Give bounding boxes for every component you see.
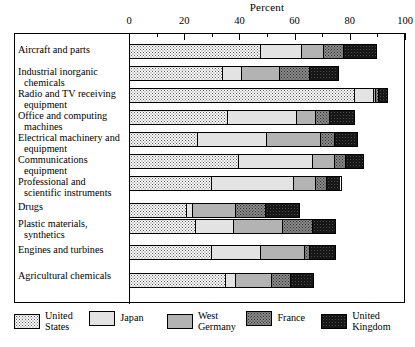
bar-segment-fr[interactable] xyxy=(335,155,346,168)
legend-label-uk: UnitedKingdom xyxy=(352,311,391,332)
bar-segment-us[interactable] xyxy=(130,155,239,168)
bar-segment-jp[interactable] xyxy=(355,89,374,102)
bar-segment-uk[interactable] xyxy=(310,67,337,80)
bar-segment-jp[interactable] xyxy=(212,177,294,190)
bar-segment-uk[interactable] xyxy=(344,45,377,58)
bar-segment-uk[interactable] xyxy=(291,274,313,287)
bar-segment-fr[interactable] xyxy=(283,220,313,233)
stacked-bar[interactable] xyxy=(129,88,388,103)
bar-segment-us[interactable] xyxy=(130,220,196,233)
bar-segment-us[interactable] xyxy=(130,67,223,80)
stacked-bar[interactable] xyxy=(129,154,364,169)
bar-segment-fr[interactable] xyxy=(324,45,343,58)
category-label: Communicationsequipment xyxy=(18,155,126,176)
bar-segment-uk[interactable] xyxy=(266,204,299,217)
bar-segment-wg[interactable] xyxy=(261,246,305,259)
bar-segment-wg[interactable] xyxy=(302,45,324,58)
legend-label-line: Germany xyxy=(198,322,236,333)
stacked-bar[interactable] xyxy=(129,66,339,81)
bar-segment-fr[interactable] xyxy=(316,111,330,124)
x-tick-label: 80 xyxy=(345,15,356,26)
bar-segment-jp[interactable] xyxy=(261,45,302,58)
category-label-line: scientific instruments xyxy=(18,188,126,199)
category-label: Radio and TV receivingequipment xyxy=(18,89,126,110)
category-label-line: machines xyxy=(18,122,126,133)
category-label: Aircraft and parts xyxy=(18,45,126,56)
x-axis-tick-labels: 020406080100 xyxy=(0,15,415,28)
legend-label-line: United xyxy=(45,311,73,322)
category-label: Plastic materials,synthetics xyxy=(18,219,126,240)
bar-segment-us[interactable] xyxy=(130,89,355,102)
bar-segment-wg[interactable] xyxy=(267,133,322,146)
bar-segment-fr[interactable] xyxy=(272,274,291,287)
bar-segment-fr[interactable] xyxy=(321,133,335,146)
bar-segment-uk[interactable] xyxy=(327,177,341,190)
x-tick-label: 0 xyxy=(126,15,131,26)
category-label-line: Aircraft and parts xyxy=(18,44,90,55)
legend-item-jp[interactable]: Japan xyxy=(89,311,143,326)
legend-item-us[interactable]: UnitedStates xyxy=(14,311,73,332)
bar-segment-uk[interactable] xyxy=(335,133,357,146)
legend-item-wg[interactable]: WestGermany xyxy=(167,311,236,332)
bar-segment-wg[interactable] xyxy=(234,220,283,233)
stacked-bar[interactable] xyxy=(129,203,300,218)
category-label-line: Plastic materials, xyxy=(18,218,88,229)
legend-item-uk[interactable]: UnitedKingdom xyxy=(321,311,391,332)
bar-segment-jp[interactable] xyxy=(196,220,234,233)
bar-segment-us[interactable] xyxy=(130,45,261,58)
legend-label-line: West xyxy=(198,311,236,322)
bar-segment-wg[interactable] xyxy=(193,204,237,217)
bar-segment-uk[interactable] xyxy=(330,111,355,124)
bar-segment-jp[interactable] xyxy=(198,133,266,146)
legend-label-line: France xyxy=(277,313,305,324)
stacked-bar[interactable] xyxy=(129,219,336,234)
bar-segment-uk[interactable] xyxy=(310,246,335,259)
bar-segment-us[interactable] xyxy=(130,177,212,190)
bar-segment-us[interactable] xyxy=(130,111,228,124)
legend-label-jp: Japan xyxy=(120,313,143,324)
bar-segment-wg[interactable] xyxy=(242,67,280,80)
bar-segment-uk[interactable] xyxy=(379,89,387,102)
bar-segment-jp[interactable] xyxy=(228,111,296,124)
bar-segment-uk[interactable] xyxy=(346,155,362,168)
category-label-line: Electrical machinery and xyxy=(18,132,120,143)
bar-segment-wg[interactable] xyxy=(313,155,335,168)
category-label-line: equipment xyxy=(18,100,126,111)
x-tick-label: 40 xyxy=(234,15,245,26)
category-label-line: equipment xyxy=(18,166,126,177)
bar-segment-jp[interactable] xyxy=(223,67,242,80)
bar-segment-jp[interactable] xyxy=(212,246,261,259)
legend-swatch-fr xyxy=(246,311,272,326)
legend-label-line: United xyxy=(352,311,391,322)
bar-segment-wg[interactable] xyxy=(294,177,316,190)
bar-segment-us[interactable] xyxy=(130,246,212,259)
bar-segment-fr[interactable] xyxy=(280,67,310,80)
category-label-line: Drugs xyxy=(18,201,43,212)
bar-segment-jp[interactable] xyxy=(239,155,313,168)
bar-segment-us[interactable] xyxy=(130,274,226,287)
bar-segment-wg[interactable] xyxy=(297,111,316,124)
category-label-line: Engines and turbines xyxy=(18,244,103,255)
stacked-bar[interactable] xyxy=(129,176,342,191)
bar-segment-fr[interactable] xyxy=(236,204,266,217)
category-label-line: Professional and xyxy=(18,176,86,187)
legend-label-line: Japan xyxy=(120,313,143,324)
x-tick-label: 20 xyxy=(179,15,190,26)
stacked-bar[interactable] xyxy=(129,132,358,147)
bar-segment-us[interactable] xyxy=(130,133,198,146)
bar-segment-fr[interactable] xyxy=(316,177,327,190)
category-label-line: equipment xyxy=(18,144,126,155)
legend-label-wg: WestGermany xyxy=(198,311,236,332)
bar-segment-wg[interactable] xyxy=(236,274,271,287)
legend-item-fr[interactable]: France xyxy=(246,311,305,326)
stacked-bar[interactable] xyxy=(129,273,314,288)
bar-segment-uk[interactable] xyxy=(313,220,335,233)
stacked-bar[interactable] xyxy=(129,44,377,59)
bar-segment-us[interactable] xyxy=(130,204,187,217)
bar-segment-jp[interactable] xyxy=(226,274,237,287)
stacked-bar[interactable] xyxy=(129,245,336,260)
legend-swatch-jp xyxy=(89,311,115,326)
stacked-bar[interactable] xyxy=(129,110,355,125)
legend-swatch-wg xyxy=(167,314,193,329)
category-label-line: synthetics xyxy=(18,230,126,241)
